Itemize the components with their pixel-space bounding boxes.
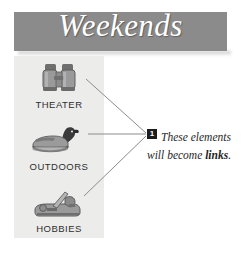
- sidebar-item-label: THEATER: [14, 99, 104, 110]
- sidebar-item-label: HOBBIES: [14, 223, 104, 234]
- page-title: Weekends: [14, 9, 227, 42]
- sidebar-item-hobbies[interactable]: HOBBIES: [14, 184, 104, 234]
- callout-text-after: .: [228, 149, 231, 161]
- callout-note: 1 These elements will become links.: [147, 127, 231, 163]
- hand-plane-icon: [23, 184, 95, 222]
- sidebar-item-outdoors[interactable]: OUTDOORS: [14, 122, 104, 172]
- sidebar-item-theater[interactable]: THEATER: [14, 60, 104, 110]
- callout-number-badge: 1: [147, 129, 157, 139]
- callout-text-bold: links: [205, 149, 228, 161]
- duck-decoy-icon: [23, 122, 95, 160]
- callout-text: These elements will become links.: [147, 131, 231, 161]
- figure-container: Weekends THEATER: [0, 0, 242, 254]
- binoculars-icon: [23, 60, 95, 98]
- sidebar-item-label: OUTDOORS: [14, 161, 104, 172]
